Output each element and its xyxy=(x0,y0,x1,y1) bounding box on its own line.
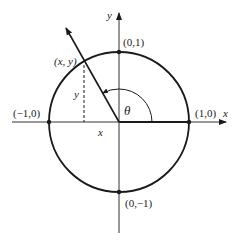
unit-circle-diagram: y x (0,1) (0,−1) (−1,0) (1,0) (x, y) θ y… xyxy=(0,0,241,240)
x-axis-label: x xyxy=(222,107,228,119)
y-axis-label: y xyxy=(106,9,112,21)
angle-theta-label: θ xyxy=(124,103,131,118)
point-top xyxy=(117,50,121,54)
label-point-xy: (x, y) xyxy=(54,55,77,68)
label-point-right: (1,0) xyxy=(195,107,216,120)
point-bottom xyxy=(117,190,121,194)
label-point-top: (0,1) xyxy=(123,36,144,49)
point-left xyxy=(47,120,51,124)
point-right xyxy=(187,120,191,124)
projection-x-label: x xyxy=(97,126,103,138)
projection-y-label: y xyxy=(73,88,79,100)
label-point-left: (−1,0) xyxy=(13,107,41,120)
terminal-ray xyxy=(66,28,119,122)
label-point-bottom: (0,−1) xyxy=(125,197,153,210)
